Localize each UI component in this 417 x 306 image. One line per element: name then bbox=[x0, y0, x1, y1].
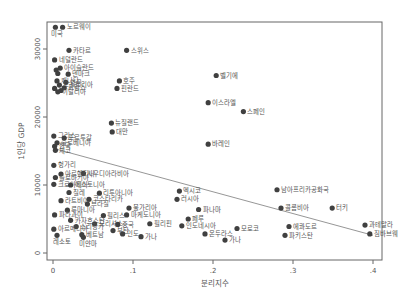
point-label: 아르메니아 bbox=[58, 224, 88, 233]
data-point bbox=[53, 175, 58, 180]
data-point bbox=[53, 148, 58, 153]
data-point bbox=[51, 163, 56, 168]
x-tick-label: .3 bbox=[290, 267, 297, 275]
point-label: 노르웨이 bbox=[67, 22, 91, 31]
point-label: 베트남 bbox=[86, 230, 104, 239]
data-point bbox=[126, 206, 131, 211]
point-label: 콜롬비아 bbox=[285, 203, 309, 212]
data-point bbox=[234, 226, 239, 231]
x-axis-title: 분리지수 bbox=[201, 279, 229, 288]
data-point bbox=[174, 197, 179, 202]
data-point bbox=[138, 234, 143, 239]
point-label: 핀란드 bbox=[121, 84, 139, 93]
data-point bbox=[124, 48, 129, 53]
data-point bbox=[53, 25, 58, 30]
point-label: 터키 bbox=[336, 203, 348, 212]
point-label: 미국 bbox=[51, 29, 63, 38]
data-point bbox=[51, 182, 56, 187]
point-label: 칠레 bbox=[73, 188, 85, 197]
data-point bbox=[54, 233, 59, 238]
y-axis: 0100002000030000 bbox=[34, 38, 47, 255]
point-label: 인도네시아 bbox=[186, 221, 216, 230]
x-tick-label: .2 bbox=[210, 267, 217, 275]
point-label: 스위스 bbox=[131, 47, 149, 55]
data-point bbox=[57, 82, 62, 87]
data-point bbox=[278, 206, 283, 211]
point-label: 남아프리카공화국 bbox=[281, 185, 329, 194]
data-point bbox=[124, 212, 129, 217]
point-label: 에콰도르 bbox=[293, 222, 317, 231]
data-point bbox=[110, 228, 115, 233]
point-label: 짐바브웨 bbox=[374, 229, 398, 238]
data-point bbox=[58, 88, 63, 93]
data-point bbox=[241, 109, 246, 114]
data-point bbox=[206, 100, 211, 105]
data-point bbox=[55, 71, 60, 76]
x-tick-label: 0 bbox=[51, 267, 55, 275]
point-label: 과테말라 bbox=[369, 220, 393, 229]
data-point bbox=[120, 231, 125, 236]
data-point bbox=[66, 190, 71, 195]
x-tick-label: .4 bbox=[370, 267, 377, 275]
point-label: 체코 bbox=[59, 147, 71, 155]
data-point bbox=[66, 72, 71, 77]
point-label: 가나 bbox=[145, 232, 157, 241]
point-label: 이탈리아 bbox=[62, 87, 86, 96]
y-tick-label: 20000 bbox=[34, 106, 42, 128]
y-axis-title: 1인당 GDP bbox=[16, 122, 26, 160]
data-point bbox=[117, 78, 122, 83]
point-label: 미얀마 bbox=[79, 239, 97, 248]
data-point bbox=[367, 231, 372, 236]
data-point bbox=[274, 187, 279, 192]
data-point bbox=[206, 142, 211, 147]
data-point bbox=[109, 121, 114, 126]
point-label: 바레인 bbox=[212, 139, 230, 148]
data-point bbox=[179, 223, 184, 228]
data-point bbox=[52, 86, 57, 91]
data-point bbox=[186, 216, 191, 221]
point-label: 파나마 bbox=[203, 205, 221, 214]
data-point bbox=[286, 224, 291, 229]
scatter-chart: 0.1.2.3.4 0100002000030000 분리지수 1인당 GDP … bbox=[0, 0, 417, 306]
point-label: 필리스 bbox=[107, 211, 125, 220]
point-label: 이스라엘 bbox=[212, 98, 236, 107]
data-point bbox=[51, 227, 56, 232]
point-label: 가나 bbox=[229, 235, 241, 244]
x-axis: 0.1.2.3.4 bbox=[51, 260, 377, 275]
point-label: 모로코 bbox=[241, 225, 259, 233]
y-tick-label: 30000 bbox=[34, 38, 42, 60]
data-point bbox=[58, 198, 63, 203]
data-point bbox=[202, 231, 207, 236]
x-tick-label: .1 bbox=[130, 267, 137, 275]
data-point bbox=[51, 133, 56, 138]
point-label: 헝가리 bbox=[58, 160, 76, 169]
data-point bbox=[330, 206, 335, 211]
data-point bbox=[66, 48, 71, 53]
point-label: 스페인 bbox=[247, 107, 265, 116]
point-label: 인도 bbox=[127, 229, 139, 238]
data-point bbox=[214, 73, 219, 78]
data-point bbox=[177, 189, 182, 194]
data-point bbox=[68, 182, 73, 187]
point-label: 레소토 bbox=[53, 237, 71, 246]
y-tick-label: 0 bbox=[34, 251, 42, 255]
point-label: 네덜란드 bbox=[59, 55, 83, 64]
data-point bbox=[60, 25, 65, 30]
data-point bbox=[114, 86, 119, 91]
data-point bbox=[222, 237, 227, 242]
data-point bbox=[282, 233, 287, 238]
point-label: 벨기에 bbox=[220, 71, 238, 80]
point-label: 카타르 bbox=[73, 46, 91, 55]
point-label: 마케도니아 bbox=[131, 210, 161, 219]
data-point bbox=[147, 221, 152, 226]
point-label: 멕시코 bbox=[183, 186, 201, 195]
data-point bbox=[196, 207, 201, 212]
data-point bbox=[110, 129, 115, 134]
data-point bbox=[52, 212, 57, 217]
y-tick-label: 10000 bbox=[34, 174, 42, 196]
data-point bbox=[68, 218, 73, 223]
point-label: 필리핀 bbox=[154, 219, 172, 228]
point-label: 뉴질랜드 bbox=[115, 118, 139, 127]
data-point bbox=[81, 235, 86, 240]
data-point bbox=[362, 223, 367, 228]
